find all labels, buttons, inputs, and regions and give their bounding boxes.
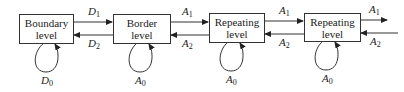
node-label-line1: Border <box>127 17 158 29</box>
edge-label-d2: D2 <box>88 37 100 51</box>
node-boundary-level: Boundary level <box>19 14 74 44</box>
edge-label-a1-repeating: A1 <box>279 4 290 18</box>
self-loop-repeating2 <box>315 41 338 70</box>
loop-label-border: A0 <box>135 74 146 88</box>
node-label-line2: level <box>226 28 247 40</box>
node-label-line1: Boundary <box>25 17 68 29</box>
loop-label-boundary: D0 <box>41 74 53 88</box>
node-border-level: Border level <box>113 14 171 44</box>
node-label-line1: Repeating <box>215 16 260 28</box>
edge-label-a2-border: A2 <box>182 37 193 51</box>
self-loop-boundary <box>35 43 58 72</box>
node-label-line1: Repeating <box>310 16 355 28</box>
loop-label-repeating2: A0 <box>322 72 333 86</box>
edge-label-a2-repeating: A2 <box>279 36 290 50</box>
node-label-line2: level <box>36 29 57 41</box>
edge-label-d1: D1 <box>88 5 100 19</box>
node-label-line2: level <box>131 29 152 41</box>
edge-label-a1-border: A1 <box>182 5 193 19</box>
self-loop-repeating1 <box>220 42 243 71</box>
node-label-line2: level <box>322 28 343 40</box>
loop-label-repeating1: A0 <box>226 73 237 87</box>
node-repeating-level-2: Repeating level <box>304 13 361 42</box>
edge-label-a1-out: A1 <box>369 3 380 17</box>
node-repeating-level-1: Repeating level <box>209 13 265 43</box>
self-loop-border <box>129 43 152 72</box>
level-transition-diagram: Boundary level Border level Repeating le… <box>0 0 404 92</box>
edge-label-a2-in: A2 <box>370 35 381 49</box>
